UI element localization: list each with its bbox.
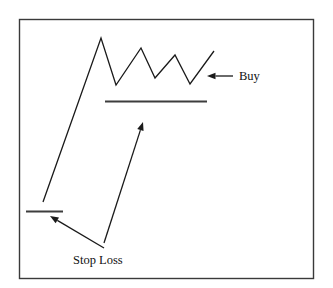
chart-figure: Buy Stop Loss	[0, 0, 333, 288]
figure-border	[20, 20, 314, 279]
trading-pattern-diagram: Buy Stop Loss	[0, 0, 333, 288]
buy-label: Buy	[239, 69, 261, 83]
stop-loss-label: Stop Loss	[73, 253, 123, 267]
